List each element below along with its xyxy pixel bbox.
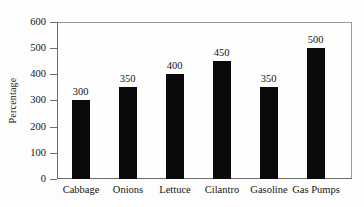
bar-group: 400 [151, 22, 198, 179]
x-tick-label: Gas Pumps [286, 183, 346, 197]
bar-group: 500 [292, 22, 339, 179]
y-tick-mark [50, 22, 57, 23]
y-tick-mark [50, 179, 57, 180]
y-tick-mark [50, 153, 57, 154]
bar-value-label: 300 [73, 86, 89, 97]
bar-group: 300 [57, 22, 104, 179]
bar-value-label: 450 [214, 47, 230, 58]
y-tick-label: 600 [16, 16, 46, 27]
bar[interactable] [166, 74, 184, 179]
y-tick-mark [50, 127, 57, 128]
y-tick-mark [50, 48, 57, 49]
y-tick-label: 400 [16, 68, 46, 79]
bar-group: 350 [104, 22, 151, 179]
y-tick-label: 100 [16, 147, 46, 158]
bars-layer: 300 350 400 450 350 500 [57, 22, 352, 179]
bar[interactable] [119, 87, 137, 179]
y-tick-label: 200 [16, 121, 46, 132]
bar-value-label: 350 [120, 73, 136, 84]
y-tick-mark [50, 100, 57, 101]
y-tick-mark [50, 74, 57, 75]
bar-group: 350 [245, 22, 292, 179]
y-tick-label: 0 [16, 173, 46, 184]
bar[interactable] [307, 48, 325, 179]
bar-value-label: 400 [167, 60, 183, 71]
bar[interactable] [72, 100, 90, 179]
y-tick-label: 300 [16, 94, 46, 105]
y-tick-label: 500 [16, 42, 46, 53]
bar[interactable] [260, 87, 278, 179]
bar-value-label: 350 [261, 73, 277, 84]
bar-value-label: 500 [308, 34, 324, 45]
bar-group: 450 [198, 22, 245, 179]
x-axis: Cabbage Onions Lettuce Cilantro Gasoline… [57, 183, 352, 199]
bar[interactable] [213, 61, 231, 179]
bar-chart: Percentage 600 500 400 300 200 100 0 300… [0, 0, 364, 207]
